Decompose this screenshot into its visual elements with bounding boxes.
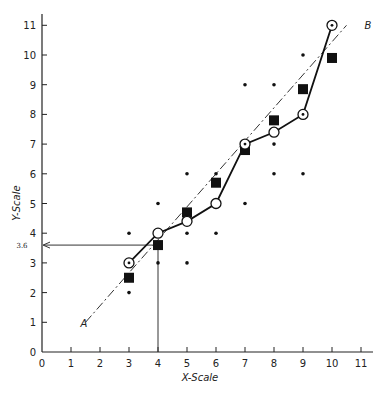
y-tick-label: 7 xyxy=(30,139,36,150)
data-dot xyxy=(214,231,218,235)
x-axis-title: X-Scale xyxy=(181,372,218,383)
circle-marker xyxy=(269,127,279,137)
guide-value-label: 3.6 xyxy=(16,242,28,250)
y-tick-label: 6 xyxy=(30,169,36,180)
square-marker xyxy=(327,53,337,63)
square-marker xyxy=(153,240,163,250)
circle-marker xyxy=(211,199,221,209)
y-axis-title: Y-Scale xyxy=(11,185,22,220)
line-label-b: B xyxy=(365,20,372,31)
square-marker xyxy=(124,273,134,283)
column-means xyxy=(124,20,337,268)
data-dot xyxy=(301,53,305,57)
circle-marker xyxy=(153,228,163,238)
line-label-a: A xyxy=(80,318,88,329)
means-line xyxy=(129,25,332,263)
x-tick-label: 10 xyxy=(326,358,339,369)
x-tick-label: 11 xyxy=(355,358,368,369)
x-tick-label: 6 xyxy=(213,358,219,369)
y-tick-label: 0 xyxy=(30,347,36,358)
square-marker xyxy=(269,115,279,125)
data-dot xyxy=(272,142,276,146)
x-tick-label: 9 xyxy=(300,358,306,369)
means-polyline xyxy=(129,25,332,263)
x-tick-label: 0 xyxy=(39,358,45,369)
y-tick-label: 1 xyxy=(30,317,36,328)
x-tick-label: 5 xyxy=(184,358,190,369)
y-tick-label: 4 xyxy=(30,228,36,239)
circle-marker xyxy=(182,216,192,226)
x-tick-label: 7 xyxy=(242,358,248,369)
x-tick-label: 8 xyxy=(271,358,277,369)
data-dot xyxy=(185,261,189,265)
square-marker xyxy=(298,84,308,94)
data-dot xyxy=(127,291,131,295)
y-tick-label: 3 xyxy=(30,258,36,269)
circle-center-dot xyxy=(244,143,247,146)
data-dot xyxy=(301,172,305,176)
x-tick-label: 2 xyxy=(97,358,103,369)
chart-canvas: 0123456789101101234567891011 X-Scale Y-S… xyxy=(0,0,388,400)
data-dot xyxy=(156,261,160,265)
x-tick-label: 1 xyxy=(68,358,74,369)
x-tick-label: 3 xyxy=(126,358,132,369)
y-tick-label: 8 xyxy=(30,109,36,120)
data-dot xyxy=(272,172,276,176)
y-tick-label: 11 xyxy=(23,20,36,31)
observed-points xyxy=(127,53,305,294)
data-dot xyxy=(272,83,276,87)
y-tick-label: 9 xyxy=(30,80,36,91)
data-dot xyxy=(243,83,247,87)
square-marker xyxy=(211,178,221,188)
circle-center-dot xyxy=(331,24,334,27)
y-tick-label: 2 xyxy=(30,288,36,299)
data-dot xyxy=(214,172,218,176)
y-tick-label: 10 xyxy=(23,50,36,61)
regression-estimates xyxy=(124,53,337,283)
circle-center-dot xyxy=(302,113,305,116)
y-tick-label: 5 xyxy=(30,199,36,210)
data-dot xyxy=(127,231,131,235)
axes: 0123456789101101234567891011 xyxy=(23,14,373,369)
circle-center-dot xyxy=(128,262,131,265)
data-dot xyxy=(156,202,160,206)
x-tick-label: 4 xyxy=(155,358,161,369)
data-dot xyxy=(185,172,189,176)
data-dot xyxy=(243,202,247,206)
data-dot xyxy=(185,231,189,235)
guide-lines xyxy=(43,242,158,352)
